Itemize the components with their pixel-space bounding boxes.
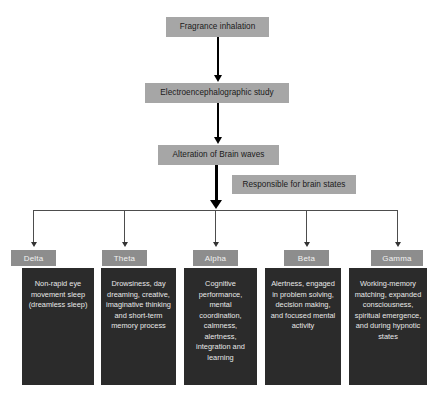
branch-leg-alpha xyxy=(215,210,216,243)
arrowhead-fragrance-to-eeg xyxy=(214,75,222,82)
wave-description-theta: Drowsiness, day dreaming, creative, imag… xyxy=(101,268,176,385)
arrowhead-branch-theta xyxy=(122,242,128,247)
branch-leg-gamma xyxy=(397,210,398,243)
arrowhead-branch-gamma xyxy=(395,242,401,247)
connector-fragrance-to-eeg xyxy=(217,37,219,76)
arrowhead-branch-alpha xyxy=(213,242,219,247)
process-box-eeg-study: Electroencephalographic study xyxy=(145,83,289,103)
wave-description-beta: Alertness, engaged in problem solving, d… xyxy=(265,268,341,385)
wave-description-delta: Non-rapid eye movement sleep (dreamless … xyxy=(22,268,94,385)
branch-leg-theta xyxy=(124,210,125,243)
arrowhead-eeg-to-alteration xyxy=(214,137,222,144)
connector-eeg-to-alteration xyxy=(217,103,219,139)
wave-label-beta: Beta xyxy=(284,250,329,266)
wave-label-theta: Theta xyxy=(102,250,147,266)
wave-description-gamma: Working-memory matching, expanded consci… xyxy=(349,268,427,385)
annotation-responsible-for-brain-states: Responsible for brain states xyxy=(232,175,356,194)
arrowhead-alteration-to-branch xyxy=(210,200,222,209)
connector-alteration-to-branch xyxy=(215,165,218,203)
flowchart-diagram: Fragrance inhalation Electroencephalogra… xyxy=(0,0,438,407)
wave-label-gamma: Gamma xyxy=(371,250,423,266)
arrowhead-branch-beta xyxy=(304,242,310,247)
wave-description-alpha: Cognitive performance, mental coordinati… xyxy=(184,268,257,385)
branch-leg-delta xyxy=(33,210,34,243)
process-box-fragrance-inhalation: Fragrance inhalation xyxy=(166,17,269,37)
process-box-alteration-brain-waves: Alteration of Brain waves xyxy=(158,145,279,165)
wave-label-alpha: Alpha xyxy=(193,250,238,266)
wave-label-delta: Delta xyxy=(11,250,56,266)
arrowhead-branch-delta xyxy=(31,242,37,247)
branch-leg-beta xyxy=(306,210,307,243)
